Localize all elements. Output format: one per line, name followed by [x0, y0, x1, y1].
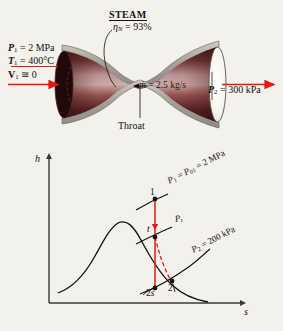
- inlet-velocity-label: V1 ≅ 0: [8, 69, 37, 80]
- outlet-pressure-label: P2 = 300 kPa: [208, 84, 261, 95]
- state-label-1: 1: [150, 187, 155, 197]
- saturation-dome-curve: [58, 222, 208, 302]
- state-point-1: [153, 197, 158, 202]
- inlet-velocity-value: ≅ 0: [21, 69, 37, 80]
- nozzle-efficiency-label: ηN = 93%: [113, 21, 152, 32]
- inlet-temperature-label: T1 = 400°C: [8, 55, 54, 66]
- eta-value: 93%: [133, 21, 151, 32]
- steam-title: STEAM: [109, 9, 147, 21]
- inlet-pressure-label: P1 = 2 MPa: [8, 42, 55, 53]
- outlet-pressure-value: 300 kPa: [228, 84, 261, 95]
- hs-diagram: [46, 153, 246, 306]
- mass-flow-value: 2.5 kg/s: [156, 80, 186, 90]
- eta-subscript: N: [118, 25, 123, 32]
- h-axis-arrowhead: [46, 153, 52, 159]
- state-label-t: t: [147, 224, 150, 234]
- inlet-temperature-value: 400°C: [28, 55, 54, 66]
- isentropic-process-arrowhead: [152, 224, 158, 230]
- inlet-pressure-value: 2 MPa: [28, 42, 54, 53]
- mass-flow-label: ṁ = 2.5 kg/s: [139, 80, 186, 90]
- s-axis-label: s: [244, 306, 248, 317]
- state-label-2s: 2s: [146, 288, 154, 298]
- throat-label: Throat: [118, 120, 145, 131]
- state-point-t: [153, 235, 158, 240]
- mass-flow-symbol: ṁ: [139, 80, 146, 90]
- state-label-2: 2: [168, 283, 173, 293]
- h-axis-label: h: [35, 153, 40, 164]
